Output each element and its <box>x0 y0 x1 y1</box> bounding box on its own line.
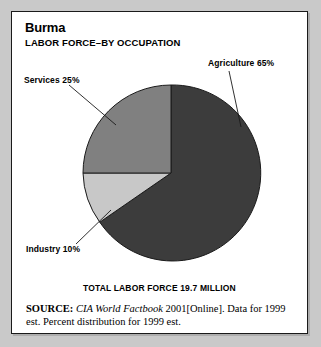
source-note: SOURCE: CIA World Factbook 2001[Online].… <box>26 302 297 328</box>
source-publication: CIA World Factbook <box>76 303 163 314</box>
pie-chart: Agriculture 65% Services 25% Industry 10… <box>12 12 309 295</box>
pie-slice-services <box>83 85 171 173</box>
source-keyword: SOURCE: <box>26 303 73 314</box>
slice-label-services: Services 25% <box>24 75 80 85</box>
slice-label-agriculture: Agriculture 65% <box>208 58 274 68</box>
leader-line-services <box>69 85 116 125</box>
page-background: Burma LABOR FORCE–BY OCCUPATION Agricult… <box>0 0 321 347</box>
chart-card: Burma LABOR FORCE–BY OCCUPATION Agricult… <box>11 11 308 334</box>
slice-label-industry: Industry 10% <box>26 244 80 254</box>
total-labor-force-label: TOTAL LABOR FORCE 19.7 MILLION <box>12 283 307 293</box>
